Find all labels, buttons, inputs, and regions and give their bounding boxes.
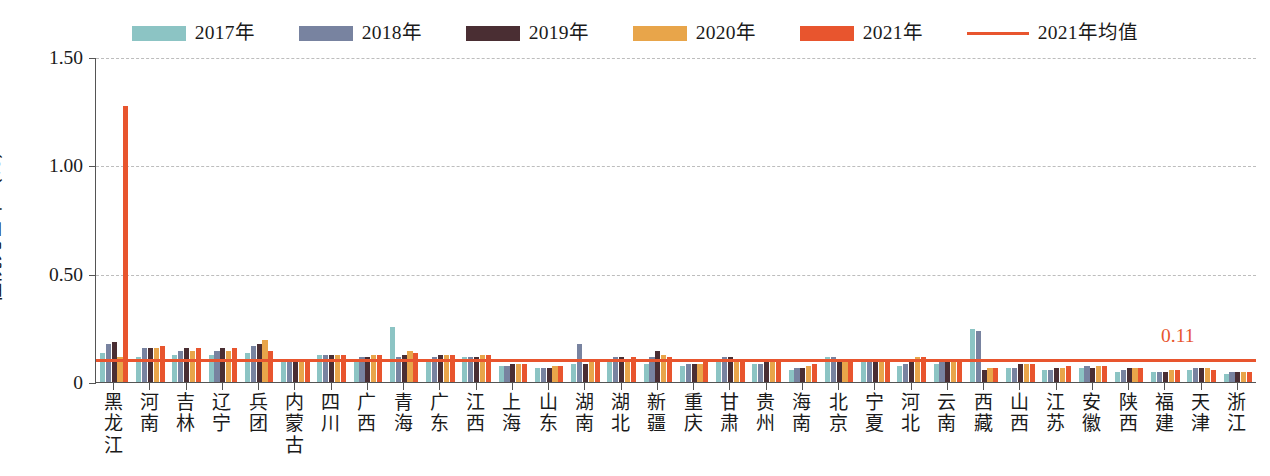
x-axis-label[interactable]: 贵州 <box>748 392 784 476</box>
legend-item-1[interactable]: 2017年 <box>132 23 255 43</box>
x-axis-label-char: 四 <box>321 392 340 413</box>
x-axis-label[interactable]: 安徽 <box>1074 392 1110 476</box>
bar <box>625 359 630 383</box>
x-axis-label[interactable]: 四川 <box>313 392 349 476</box>
x-axis-label[interactable]: 西藏 <box>965 392 1001 476</box>
x-axis-label[interactable]: 海南 <box>784 392 820 476</box>
legend-label: 2020年 <box>696 23 756 43</box>
x-axis-label[interactable]: 河南 <box>131 392 167 476</box>
mean-reference-line <box>96 359 1256 362</box>
x-axis-label-char: 江 <box>466 392 485 413</box>
legend-item-4[interactable]: 2020年 <box>633 23 756 43</box>
bar-group <box>1111 58 1147 383</box>
bar <box>934 364 939 384</box>
x-axis-label[interactable]: 广东 <box>421 392 457 476</box>
x-axis-label[interactable]: 甘肃 <box>711 392 747 476</box>
x-axis-label[interactable]: 湖南 <box>566 392 602 476</box>
bar <box>1066 366 1071 383</box>
x-tick-cell <box>530 383 566 390</box>
bar <box>939 361 944 383</box>
legend-label: 2017年 <box>195 23 255 43</box>
x-axis-label[interactable]: 宁夏 <box>856 392 892 476</box>
x-axis-label[interactable]: 广西 <box>349 392 385 476</box>
bar <box>1138 368 1143 383</box>
x-tick-mark <box>222 383 223 390</box>
x-axis-label[interactable]: 青海 <box>385 392 421 476</box>
bar <box>993 368 998 383</box>
bar <box>499 366 504 383</box>
bar <box>1018 364 1023 384</box>
bar <box>806 366 811 383</box>
x-axis-label-char: 广 <box>357 392 376 413</box>
x-axis-label[interactable]: 天津 <box>1183 392 1219 476</box>
bar-group <box>676 58 712 383</box>
legend-item-2[interactable]: 2018年 <box>299 23 422 43</box>
x-tick-mark <box>367 383 368 390</box>
x-axis-label[interactable]: 上海 <box>494 392 530 476</box>
x-axis-label-char: 苏 <box>1046 413 1065 434</box>
bar <box>758 364 763 384</box>
x-axis-label[interactable]: 重庆 <box>675 392 711 476</box>
bar <box>885 359 890 383</box>
bar <box>571 364 576 384</box>
bar-group <box>422 58 458 383</box>
bar-group <box>459 58 495 383</box>
x-axis-label-char: 西 <box>1010 413 1029 434</box>
x-axis-label[interactable]: 山西 <box>1001 392 1037 476</box>
bar <box>770 359 775 383</box>
x-axis-label-char: 西 <box>466 413 485 434</box>
x-axis-label[interactable]: 河北 <box>893 392 929 476</box>
legend-item-3[interactable]: 2019年 <box>466 23 589 43</box>
bar <box>976 331 981 383</box>
bar <box>541 368 546 383</box>
x-tick-mark <box>294 383 295 390</box>
bar <box>407 351 412 384</box>
bar-group <box>96 58 132 383</box>
x-axis-label[interactable]: 内蒙古 <box>276 392 312 476</box>
x-axis-label-char: 广 <box>430 392 449 413</box>
x-axis-label[interactable]: 云南 <box>929 392 965 476</box>
bar-group <box>277 58 313 383</box>
x-axis-label[interactable]: 黑龙江 <box>95 392 131 476</box>
legend-label: 2021年均值 <box>1038 23 1138 43</box>
x-axis-label[interactable]: 湖北 <box>603 392 639 476</box>
x-axis-label[interactable]: 新疆 <box>639 392 675 476</box>
bar <box>987 368 992 383</box>
bar <box>716 361 721 383</box>
x-axis-label[interactable]: 吉林 <box>168 392 204 476</box>
bar <box>1054 368 1059 383</box>
x-tick-cell <box>1038 383 1074 390</box>
x-axis-label[interactable]: 辽宁 <box>204 392 240 476</box>
x-tick-mark <box>766 383 767 390</box>
bar <box>516 364 521 384</box>
legend-item-6[interactable]: 2021年均值 <box>967 23 1138 43</box>
bar <box>1060 368 1065 383</box>
x-axis-label[interactable]: 兵团 <box>240 392 276 476</box>
bar <box>232 348 237 383</box>
x-axis-label[interactable]: 江西 <box>458 392 494 476</box>
bar <box>100 353 105 383</box>
legend-item-5[interactable]: 2021年 <box>800 23 923 43</box>
legend-label: 2018年 <box>362 23 422 43</box>
x-tick-cell <box>1183 383 1219 390</box>
bar-group <box>241 58 277 383</box>
x-axis-label[interactable]: 陕西 <box>1110 392 1146 476</box>
x-tick-cell <box>820 383 856 390</box>
x-axis-label-char: 河 <box>901 392 920 413</box>
x-tick-mark <box>838 383 839 390</box>
x-tick-cell <box>1001 383 1037 390</box>
x-axis-label-char: 宁 <box>212 413 231 434</box>
x-axis-label[interactable]: 江苏 <box>1038 392 1074 476</box>
x-axis-label[interactable]: 福建 <box>1146 392 1182 476</box>
x-axis-label[interactable]: 浙江 <box>1219 392 1255 476</box>
x-axis-label-char: 山 <box>1010 392 1029 413</box>
bar <box>522 364 527 384</box>
bar <box>861 359 866 383</box>
mean-value-label: 0.11 <box>1161 325 1194 347</box>
bar-group <box>1002 58 1038 383</box>
x-tick-cell <box>385 383 421 390</box>
x-axis-label-char: 江 <box>1227 413 1246 434</box>
x-axis-label[interactable]: 北京 <box>820 392 856 476</box>
bar <box>764 361 769 383</box>
x-axis-label[interactable]: 山东 <box>530 392 566 476</box>
